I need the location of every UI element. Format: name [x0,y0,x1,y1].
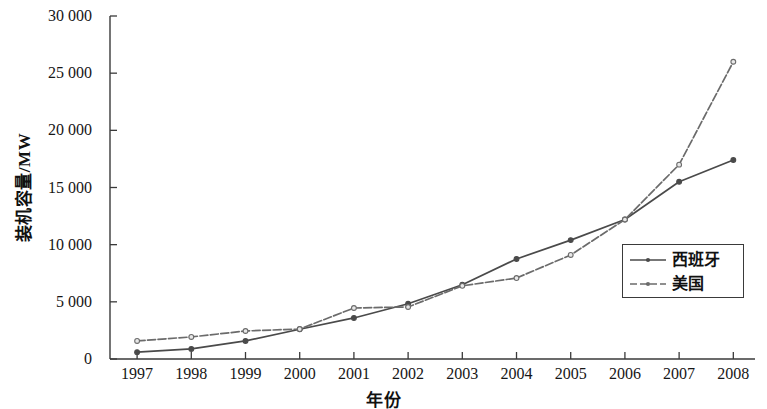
axis-lines [110,16,755,359]
data-point [731,59,736,64]
legend-label-usa: 美国 [672,276,704,292]
x-tick-label: 2000 [270,366,330,382]
legend-label-spain: 西班牙 [672,252,720,268]
x-tick-label: 1997 [107,366,167,382]
data-point [135,339,140,344]
data-point [189,347,194,352]
series-2 [135,59,736,343]
x-axis-title: 年份 [0,386,767,409]
x-tick-label: 2008 [703,366,763,382]
legend-item-usa: 美国 [629,272,737,296]
data-point [352,306,357,311]
data-point [514,276,519,281]
data-point [189,335,194,340]
data-point [514,257,519,262]
y-tick-label: 15 000 [48,180,92,196]
data-point [352,316,357,321]
data-point [297,327,302,332]
y-tick-label: 20 000 [48,122,92,138]
x-tick-label: 2004 [487,366,547,382]
data-point [568,253,573,258]
x-tick-label: 2007 [649,366,709,382]
x-tick-label: 2005 [541,366,601,382]
data-point [568,238,573,243]
legend: 西班牙 美国 [622,244,744,298]
data-point [406,305,411,310]
x-tick-label: 2002 [378,366,438,382]
x-tick-label: 2003 [432,366,492,382]
y-tick-label: 30 000 [48,8,92,24]
legend-item-spain: 西班牙 [629,248,737,272]
y-tick-label: 0 [84,351,92,367]
data-point [460,283,465,288]
y-tick-label: 5 000 [56,294,92,310]
data-point [243,339,248,344]
legend-sample-dashed-line-icon [629,278,667,290]
x-tick-label: 2006 [595,366,655,382]
data-point [677,179,682,184]
plot-area [0,0,767,409]
legend-sample-solid-line-icon [629,254,667,266]
y-tick-label: 10 000 [48,237,92,253]
x-tick-label: 1998 [161,366,221,382]
data-point [623,217,628,222]
data-point [677,162,682,167]
x-tick-label: 2001 [324,366,384,382]
x-axis-ticks [137,352,733,359]
y-tick-label: 25 000 [48,65,92,81]
x-tick-label: 1999 [216,366,276,382]
y-axis-ticks [110,16,117,359]
line-chart: 装机容量/MW 05 00010 00015 00020 00025 00030… [0,0,767,409]
data-point [243,329,248,334]
data-point [135,350,140,355]
data-point [731,158,736,163]
